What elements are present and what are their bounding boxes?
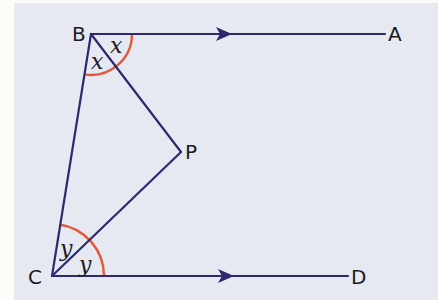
point-label-b: B [72, 22, 86, 46]
point-label-d: D [351, 265, 366, 289]
geometry-diagram: B A P C D x x y y [0, 0, 438, 300]
point-label-c: C [28, 265, 42, 289]
point-label-a: A [388, 22, 402, 46]
angle-label-y-upper: y [59, 236, 73, 261]
point-label-p: P [185, 140, 197, 164]
angle-label-x-lower: x [91, 49, 104, 74]
angle-label-y-lower: y [78, 252, 92, 277]
angle-label-x-upper: x [110, 33, 123, 58]
diagram-background [14, 3, 438, 300]
